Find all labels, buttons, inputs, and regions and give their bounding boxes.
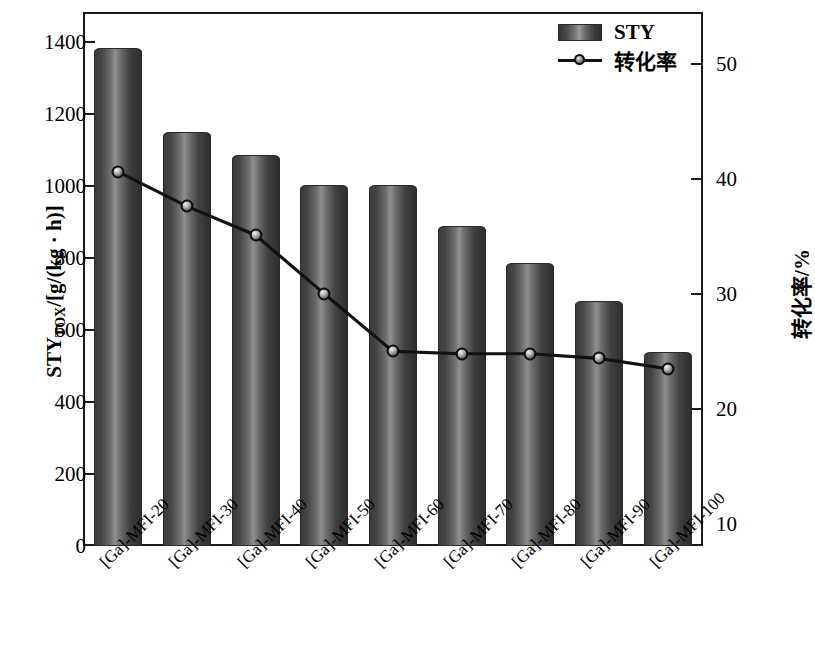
left-axis-tick-mark-1400 bbox=[84, 41, 95, 43]
line-marker-[Ga]-MFI-50 bbox=[318, 287, 331, 300]
right-axis-tick-label-50: 50 bbox=[716, 53, 776, 74]
right-axis-tick-mark-20 bbox=[691, 408, 702, 410]
left-axis-tick-mark-600 bbox=[84, 329, 95, 331]
left-axis-tick-mark-800 bbox=[84, 257, 95, 259]
line-marker-[Ga]-MFI-70 bbox=[455, 347, 468, 360]
left-axis-tick-label-600: 600 bbox=[0, 319, 86, 340]
line-marker-[Ga]-MFI-30 bbox=[181, 200, 194, 213]
left-axis-tick-label-0: 0 bbox=[0, 536, 86, 557]
line-marker-[Ga]-MFI-20 bbox=[112, 165, 125, 178]
left-axis-tick-label-1000: 1000 bbox=[0, 175, 86, 196]
right-axis-tick-mark-40 bbox=[691, 178, 702, 180]
legend-entry-conversion: 转化率 bbox=[558, 46, 708, 74]
legend-bar-swatch-icon bbox=[558, 24, 602, 41]
legend: STY 转化率 bbox=[558, 18, 708, 74]
left-axis-tick-label-400: 400 bbox=[0, 391, 86, 412]
line-marker-[Ga]-MFI-80 bbox=[524, 347, 537, 360]
right-axis-tick-label-10: 10 bbox=[716, 514, 776, 535]
left-axis-tick-label-1200: 1200 bbox=[0, 103, 86, 124]
right-axis-tick-mark-50 bbox=[691, 63, 702, 65]
legend-label-sty: STY bbox=[614, 20, 655, 45]
right-axis-tick-label-40: 40 bbox=[716, 168, 776, 189]
line-marker-[Ga]-MFI-100 bbox=[661, 362, 674, 375]
left-axis-tick-label-200: 200 bbox=[0, 463, 86, 484]
legend-circle-marker-icon bbox=[574, 54, 585, 65]
left-axis-tick-label-1400: 1400 bbox=[0, 31, 86, 52]
left-axis-tick-mark-200 bbox=[84, 473, 95, 475]
right-axis-tick-label-20: 20 bbox=[716, 399, 776, 420]
line-marker-[Ga]-MFI-90 bbox=[593, 352, 606, 365]
legend-label-conversion: 转化率 bbox=[614, 45, 677, 75]
left-axis-tick-mark-1000 bbox=[84, 185, 95, 187]
legend-line-icon bbox=[558, 52, 602, 69]
right-axis-tick-label-30: 30 bbox=[716, 283, 776, 304]
right-axis-tick-mark-30 bbox=[691, 293, 702, 295]
line-marker-[Ga]-MFI-40 bbox=[249, 229, 262, 242]
legend-entry-sty: STY bbox=[558, 18, 708, 46]
left-axis-title-main: STY bbox=[42, 337, 66, 378]
left-axis-tick-mark-400 bbox=[84, 401, 95, 403]
left-axis-tick-label-800: 800 bbox=[0, 247, 86, 268]
right-axis-title: 转化率/% bbox=[785, 194, 815, 394]
plot-area bbox=[83, 12, 703, 546]
left-axis-tick-mark-1200 bbox=[84, 113, 95, 115]
line-marker-[Ga]-MFI-60 bbox=[387, 345, 400, 358]
